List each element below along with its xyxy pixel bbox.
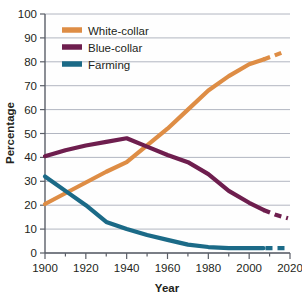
y-tick-label-20: 20 xyxy=(24,199,37,211)
y-tick-label-30: 30 xyxy=(24,175,37,187)
x-tick-label-1960: 1960 xyxy=(155,262,181,274)
x-tick-label-2000: 2000 xyxy=(236,262,262,274)
x-tick-label-2020: 2020 xyxy=(277,262,302,274)
x-tick-label-1920: 1920 xyxy=(73,262,99,274)
x-axis-title: Year xyxy=(155,282,180,294)
y-tick-label-40: 40 xyxy=(24,151,37,163)
y-tick-label-80: 80 xyxy=(24,56,37,68)
y-tick-label-100: 100 xyxy=(18,8,37,20)
y-tick-label-0: 0 xyxy=(31,247,37,259)
x-tick-label-1940: 1940 xyxy=(114,262,140,274)
legend-label-farming: Farming xyxy=(88,59,130,71)
chart-canvas: 0102030405060708090100 19001920194019601… xyxy=(0,0,302,300)
legend-label-white-collar: White-collar xyxy=(88,25,149,37)
y-axis-title: Percentage xyxy=(4,102,16,164)
y-tick-label-50: 50 xyxy=(24,128,37,140)
x-tick-label-1900: 1900 xyxy=(32,262,58,274)
legend-label-blue-collar: Blue-collar xyxy=(88,42,142,54)
y-tick-label-70: 70 xyxy=(24,80,37,92)
x-axis-tick-labels: 1900192019401960198020002020 xyxy=(32,262,302,274)
employment-share-line-chart: 0102030405060708090100 19001920194019601… xyxy=(0,0,302,300)
y-tick-label-90: 90 xyxy=(24,32,37,44)
y-tick-label-10: 10 xyxy=(24,223,37,235)
x-tick-label-1980: 1980 xyxy=(196,262,222,274)
y-tick-label-60: 60 xyxy=(24,104,37,116)
